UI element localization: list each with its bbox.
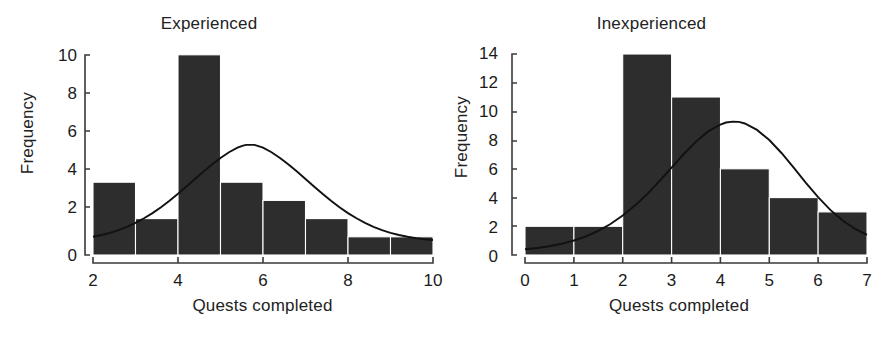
- plot-area-inexperienced: 14 12 10 8 6 4 2 0: [446, 0, 893, 341]
- y-axis-experienced: [85, 55, 90, 255]
- x-axis-inexperienced: [525, 257, 867, 263]
- bar: [263, 200, 306, 255]
- panel-inexperienced: Inexperienced Frequency Quests completed…: [446, 0, 893, 341]
- bar: [93, 182, 136, 255]
- bar: [306, 219, 349, 255]
- y-tick-label: 6: [489, 160, 498, 179]
- y-tick-label: 10: [58, 46, 77, 65]
- bar: [769, 198, 818, 255]
- y-tick-label: 0: [68, 246, 77, 265]
- x-tick-label: 1: [569, 271, 578, 290]
- bar: [136, 219, 179, 255]
- x-tick-label: 0: [520, 271, 529, 290]
- y-tick-label: 4: [489, 189, 498, 208]
- y-tick-label: 2: [489, 218, 498, 237]
- two-panel-histogram-figure: Experienced Frequency Quests completed 1…: [0, 0, 893, 341]
- x-tick-label: 7: [862, 271, 871, 290]
- y-tick-label: 4: [68, 160, 77, 179]
- plot-area-experienced: 10 8 6 4 2 0 2: [0, 0, 446, 341]
- x-tick-label: 2: [618, 271, 627, 290]
- histogram-bars-inexperienced: [525, 54, 867, 255]
- bar: [672, 97, 721, 255]
- bar: [525, 226, 574, 255]
- x-tick-label: 6: [258, 271, 267, 290]
- y-tick-label: 10: [479, 102, 498, 121]
- x-tick-label: 6: [813, 271, 822, 290]
- y-tick-label: 12: [479, 73, 498, 92]
- x-tick-label: 4: [716, 271, 725, 290]
- y-tick-label: 8: [489, 131, 498, 150]
- x-tick-label: 8: [343, 271, 352, 290]
- x-tick-label: 5: [765, 271, 774, 290]
- bar: [623, 54, 672, 255]
- bar: [221, 182, 264, 255]
- bar: [720, 169, 769, 255]
- y-tick-label: 2: [68, 198, 77, 217]
- bar: [348, 237, 391, 255]
- x-axis-experienced: [93, 257, 433, 263]
- panel-experienced: Experienced Frequency Quests completed 1…: [0, 0, 446, 341]
- y-tick-label: 6: [68, 122, 77, 141]
- histogram-bars-experienced: [93, 55, 433, 255]
- y-tick-label: 8: [68, 84, 77, 103]
- bar: [818, 212, 867, 255]
- x-tick-label: 3: [667, 271, 676, 290]
- x-tick-label: 10: [424, 271, 443, 290]
- x-tick-label: 4: [173, 271, 182, 290]
- y-tick-label: 0: [489, 247, 498, 266]
- x-tick-label: 2: [88, 271, 97, 290]
- bar: [178, 55, 221, 255]
- y-axis-inexperienced: [512, 54, 517, 255]
- y-tick-label: 14: [479, 44, 498, 63]
